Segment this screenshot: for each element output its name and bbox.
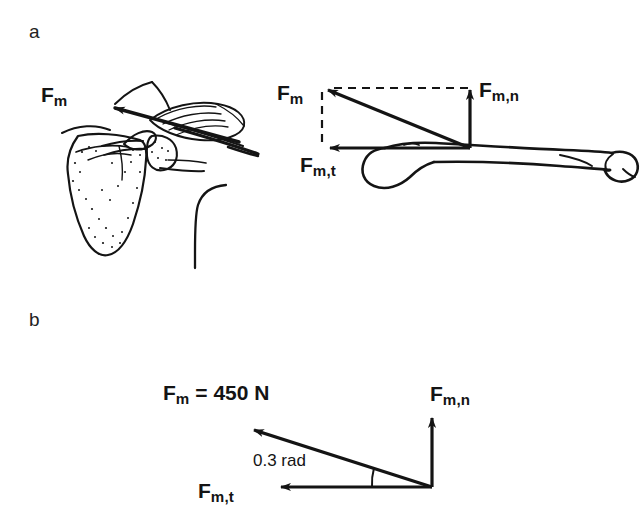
figure-root: a b [0, 0, 641, 524]
label-fm-vector-a-base: F [277, 81, 290, 104]
label-fmn-vector-b-sub: m,n [443, 391, 470, 408]
label-fmn-vector-a: Fm,n [479, 79, 519, 100]
label-fmt-vector-b-base: F [198, 479, 211, 502]
label-fm-anatomy-base: F [41, 83, 54, 106]
label-fmt-vector-a-base: F [300, 153, 313, 176]
label-fmn-vector-a-base: F [479, 78, 492, 101]
label-fmt-vector-a-sub: m,t [313, 162, 336, 179]
label-fmt-vector-b: Fm,t [198, 480, 234, 501]
label-fm-magnitude-value: = 450 N [189, 381, 269, 404]
label-fm-magnitude-b: Fm = 450 N [163, 382, 269, 403]
panel-a-vector-diagram [322, 88, 470, 148]
label-fm-anatomy: Fm [41, 84, 67, 105]
label-fm-vector-a: Fm [277, 82, 303, 103]
label-fm-magnitude-base: F [163, 381, 176, 404]
label-fm-vector-a-sub: m [290, 90, 304, 107]
humerus-bone-drawing [362, 143, 637, 188]
vector-fm-a [328, 90, 470, 148]
panel-label-a: a [29, 22, 40, 41]
label-fmn-vector-b-base: F [430, 382, 443, 405]
label-fmt-vector-a: Fm,t [300, 154, 336, 175]
figure-drawing [0, 0, 641, 524]
label-fm-magnitude-sub: m [176, 390, 190, 407]
angle-arc-b [372, 468, 374, 487]
label-fmn-vector-a-sub: m,n [492, 87, 519, 104]
label-fm-anatomy-sub: m [54, 92, 68, 109]
label-fmt-vector-b-sub: m,t [211, 488, 234, 505]
scapula-anatomy-drawing [62, 82, 258, 268]
label-angle-b: 0.3 rad [253, 452, 306, 469]
panel-label-b: b [29, 310, 40, 329]
label-fmn-vector-b: Fm,n [430, 383, 470, 404]
